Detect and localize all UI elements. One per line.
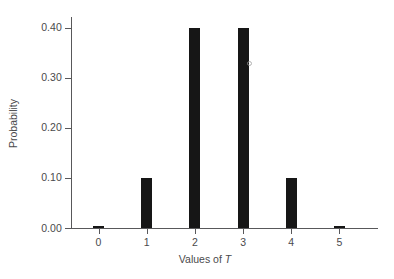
bar	[286, 178, 297, 228]
probability-bar-chart: 0.000.100.200.300.40 012345 Probability …	[0, 0, 394, 279]
x-axis-tick-label: 3	[231, 237, 255, 248]
x-axis-tick-label: 1	[135, 237, 159, 248]
x-axis-tick	[291, 229, 292, 234]
x-axis-tick	[147, 229, 148, 234]
y-axis-tick	[65, 228, 71, 229]
y-axis-tick-label: 0.10	[28, 172, 62, 183]
x-axis-tick	[99, 229, 100, 234]
bar	[93, 226, 104, 229]
x-axis-tick-label: 0	[87, 237, 111, 248]
bar	[189, 28, 200, 228]
x-axis-tick	[195, 229, 196, 234]
y-axis-tick	[65, 128, 71, 129]
y-axis-tick-label: 0.00	[28, 223, 62, 234]
y-axis-tick-label: 0.30	[28, 72, 62, 83]
x-axis-label-variable: T	[225, 253, 231, 265]
x-axis-tick-label: 2	[183, 237, 207, 248]
y-axis-tick-label: 0.20	[28, 122, 62, 133]
y-axis-label: Probability	[6, 19, 20, 228]
x-axis-tick-label: 4	[279, 237, 303, 248]
y-axis-tick	[65, 78, 71, 79]
plot-area	[72, 19, 378, 228]
x-axis-line	[71, 228, 378, 229]
x-axis-label: Values of T	[72, 254, 338, 265]
x-axis-tick-label: 5	[327, 237, 351, 248]
bar	[141, 178, 152, 228]
y-axis-tick	[65, 28, 71, 29]
scan-artifact-speck	[247, 61, 252, 66]
bar	[334, 226, 345, 229]
y-axis-tick-label: 0.40	[28, 22, 62, 33]
x-axis-tick	[243, 229, 244, 234]
y-axis-tick	[65, 178, 71, 179]
bar	[238, 28, 249, 228]
x-axis-tick	[339, 229, 340, 234]
